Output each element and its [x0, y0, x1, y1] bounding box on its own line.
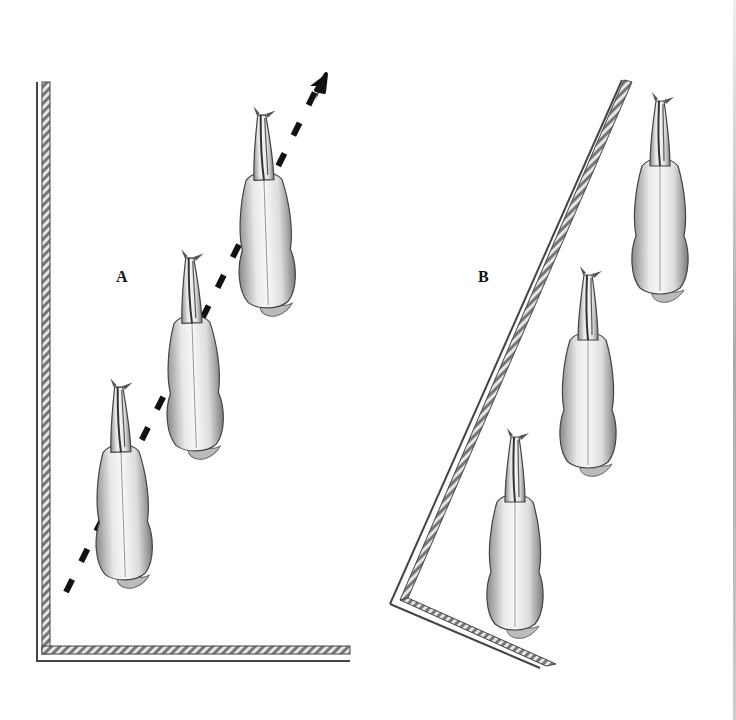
panel-b-horse-1 [487, 428, 543, 638]
panel-a-label: A [116, 268, 128, 286]
panel-a-horse-3 [233, 105, 296, 317]
panel-a-horse-1 [90, 377, 153, 589]
panel-b-horse-2 [560, 266, 616, 476]
diagram-canvas [0, 0, 736, 720]
panel-b-label: B [478, 268, 489, 286]
panel-a-horse-2 [161, 248, 224, 460]
panel-b-horse-3 [632, 92, 688, 302]
